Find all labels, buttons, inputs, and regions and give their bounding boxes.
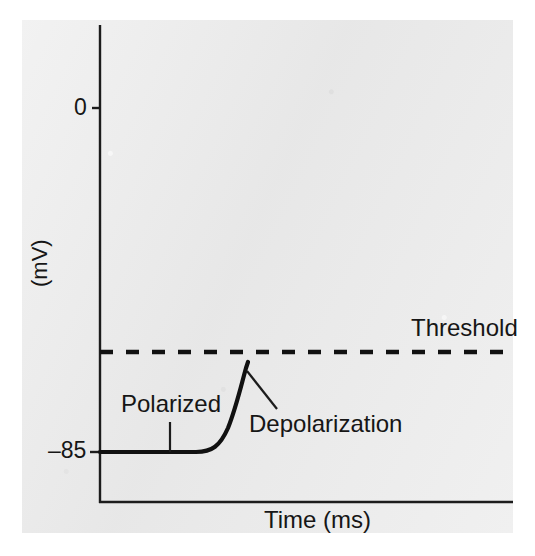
x-axis-title: Time (ms) <box>264 508 371 532</box>
polarized-label: Polarized <box>121 392 221 416</box>
action-potential-plot <box>0 0 535 556</box>
y-tick-label-zero: 0 <box>74 96 87 119</box>
figure-container: 0 –85 (mV) Threshold Polarized Depolariz… <box>0 0 535 556</box>
y-tick-label-minus85: –85 <box>48 439 86 462</box>
depolarization-label: Depolarization <box>249 412 402 436</box>
depolarization-leader-line <box>247 371 277 409</box>
threshold-label: Threshold <box>411 316 518 340</box>
y-axis-title: (mV) <box>29 239 51 287</box>
